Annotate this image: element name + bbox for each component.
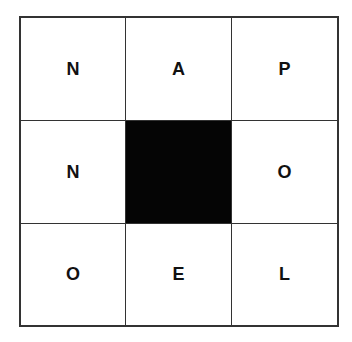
- grid-cell-r2c3[interactable]: O: [232, 121, 337, 224]
- grid-cell-r3c2[interactable]: E: [126, 224, 232, 325]
- grid-cell-r3c3[interactable]: L: [232, 224, 337, 325]
- grid-cell-r1c1[interactable]: N: [21, 18, 126, 121]
- grid-cell-r2c1[interactable]: N: [21, 121, 126, 224]
- grid-cell-center-blocked: [126, 121, 232, 224]
- letter-grid: N A P N O O E L: [19, 16, 339, 327]
- grid-cell-r3c1[interactable]: O: [21, 224, 126, 325]
- grid-cell-r1c2[interactable]: A: [126, 18, 232, 121]
- grid-cell-r1c3[interactable]: P: [232, 18, 337, 121]
